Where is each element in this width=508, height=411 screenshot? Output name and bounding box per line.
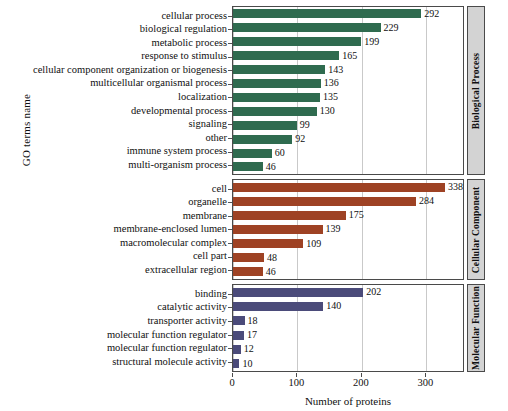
- bar: [233, 316, 245, 325]
- bar: [233, 345, 241, 354]
- category-label: biological regulation: [62, 23, 232, 37]
- bar-value-label: 109: [306, 239, 321, 249]
- panel-cellular-component: cellorganellemembranemembrane-enclosed l…: [62, 179, 498, 280]
- bar: [233, 135, 292, 144]
- bar-value-label: 92: [295, 134, 305, 144]
- category-label: localization: [62, 90, 232, 104]
- bar: [233, 93, 320, 102]
- x-axis-title: Number of proteins: [232, 395, 464, 407]
- bar-value-label: 46: [266, 267, 276, 277]
- panel-molecular-function: bindingcatalytic activitytransporter act…: [62, 284, 498, 372]
- category-label: membrane-enclosed lumen: [62, 223, 232, 237]
- bar-row: 165: [233, 51, 463, 60]
- bar: [233, 149, 272, 158]
- category-label: molecular function regulator: [62, 342, 232, 356]
- bar-row: 109: [233, 239, 463, 248]
- category-label: other: [62, 131, 232, 145]
- bar-row: 10: [233, 359, 463, 368]
- bar-value-label: 143: [328, 65, 343, 75]
- bar: [233, 331, 244, 340]
- bar-row: 338: [233, 183, 463, 192]
- category-label: catalytic activity: [62, 301, 232, 315]
- category-label: molecular function regulator: [62, 328, 232, 342]
- category-label: extracellular region: [62, 263, 232, 277]
- bar-row: 202: [233, 288, 463, 297]
- category-label: immune system process: [62, 145, 232, 159]
- bar-row: 99: [233, 121, 463, 130]
- bar: [233, 211, 346, 220]
- plot-area: 29222919916514313613513099926046: [232, 6, 464, 175]
- panel-strip-label: Biological Process: [467, 6, 485, 175]
- bar-row: 199: [233, 37, 463, 46]
- category-label: macromolecular complex: [62, 236, 232, 250]
- bar-row: 46: [233, 162, 463, 171]
- bar: [233, 9, 421, 18]
- category-label: developmental process: [62, 104, 232, 118]
- bar-row: 12: [233, 345, 463, 354]
- bar-value-label: 140: [326, 301, 341, 311]
- bar-value-label: 130: [320, 106, 335, 116]
- category-label-column: bindingcatalytic activitytransporter act…: [62, 284, 232, 372]
- bar: [233, 302, 323, 311]
- bar-row: 284: [233, 197, 463, 206]
- bar-row: 136: [233, 79, 463, 88]
- bar-row: 140: [233, 302, 463, 311]
- y-axis-title-text: GO terms name: [20, 70, 32, 190]
- panel-strip-label: Molecular Function: [467, 284, 485, 372]
- category-label: cellular component organization or bioge…: [62, 63, 232, 77]
- plot-area: 3382841751391094846: [232, 179, 464, 280]
- bar-row: 143: [233, 65, 463, 74]
- bar: [233, 183, 445, 192]
- category-label: binding: [62, 287, 232, 301]
- bar-rows: 20214018171210: [233, 285, 463, 371]
- bar-row: 46: [233, 267, 463, 276]
- bar-row: 48: [233, 253, 463, 262]
- bar: [233, 79, 321, 88]
- x-axis-tick-label: 300: [417, 377, 433, 388]
- bar: [233, 239, 303, 248]
- bar-value-label: 60: [275, 148, 285, 158]
- category-label: multi-organism process: [62, 158, 232, 172]
- bar-row: 229: [233, 23, 463, 32]
- bar-value-label: 165: [342, 51, 357, 61]
- panel-strip-text: Molecular Function: [471, 286, 481, 370]
- x-axis-tick-label: 100: [289, 377, 305, 388]
- bar: [233, 121, 297, 130]
- bar-value-label: 136: [324, 78, 339, 88]
- panel-strip-label: Cellular Component: [467, 179, 485, 280]
- plot-area-wrapper: 20214018171210: [232, 284, 464, 372]
- bar-row: 175: [233, 211, 463, 220]
- category-label: signaling: [62, 118, 232, 132]
- x-axis-tick-label: 0: [229, 377, 234, 388]
- bar: [233, 162, 263, 171]
- bar-value-label: 229: [384, 23, 399, 33]
- bar: [233, 107, 317, 116]
- bar: [233, 65, 325, 74]
- category-label: multicellular organismal process: [62, 77, 232, 91]
- bar: [233, 51, 339, 60]
- category-label: cell: [62, 182, 232, 196]
- plot-area-wrapper: 29222919916514313613513099926046: [232, 6, 464, 175]
- bar-row: 139: [233, 225, 463, 234]
- bar: [233, 197, 416, 206]
- bar-row: 17: [233, 331, 463, 340]
- bar-rows: 3382841751391094846: [233, 180, 463, 279]
- bar-value-label: 48: [267, 253, 277, 263]
- category-label: cellular process: [62, 9, 232, 23]
- bar-rows: 29222919916514313613513099926046: [233, 7, 463, 174]
- bar-value-label: 18: [248, 316, 258, 326]
- bar: [233, 288, 363, 297]
- category-label: structural molecule activity: [62, 355, 232, 369]
- category-label: response to stimulus: [62, 50, 232, 64]
- panel-biological-process: cellular processbiological regulationmet…: [62, 6, 498, 175]
- bar-value-label: 202: [366, 287, 381, 297]
- y-axis-title: GO terms name: [6, 10, 18, 130]
- bar-value-label: 99: [300, 120, 310, 130]
- bar-value-label: 10: [242, 359, 252, 369]
- chart-panels: cellular processbiological regulationmet…: [62, 6, 498, 372]
- category-label: organelle: [62, 196, 232, 210]
- bar-value-label: 139: [326, 224, 341, 234]
- plot-area: 20214018171210: [232, 284, 464, 372]
- bar: [233, 359, 239, 368]
